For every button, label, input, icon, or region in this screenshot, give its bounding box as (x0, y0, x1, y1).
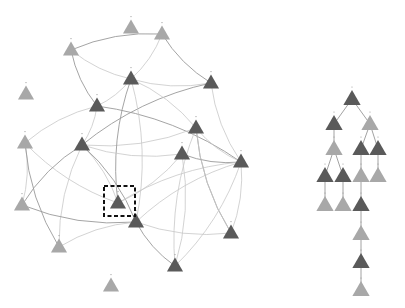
triangle-node[interactable] (316, 163, 333, 182)
triangle-node[interactable] (352, 136, 369, 155)
triangle-node[interactable] (123, 67, 139, 85)
triangle-icon (18, 86, 34, 100)
triangle-icon (352, 253, 369, 268)
graph-edge (136, 162, 241, 222)
graph-edge (211, 83, 241, 162)
node-marker (24, 131, 25, 132)
graph-edge (131, 79, 142, 222)
node-marker (360, 277, 361, 278)
node-marker (117, 191, 118, 192)
node-marker (324, 163, 325, 164)
node-marker (360, 136, 361, 137)
triangle-icon (89, 98, 105, 112)
triangle-icon (316, 167, 333, 182)
triangle-icon (343, 90, 360, 105)
triangle-node[interactable] (325, 111, 342, 130)
graph-edge (196, 128, 231, 233)
node-marker (58, 235, 59, 236)
graph-edge (174, 128, 196, 266)
node-marker (25, 82, 26, 83)
graph-nodes (14, 16, 249, 292)
triangle-icon (103, 278, 119, 292)
triangle-icon (334, 167, 351, 182)
graph-edges (22, 34, 242, 266)
triangle-icon (361, 115, 378, 130)
node-marker (240, 150, 241, 151)
triangle-icon (325, 140, 342, 155)
triangle-node[interactable] (369, 136, 386, 155)
triangle-icon (123, 20, 139, 34)
triangle-icon (369, 140, 386, 155)
node-marker (342, 163, 343, 164)
triangle-node[interactable] (167, 254, 183, 272)
graph-edge (118, 154, 182, 203)
node-marker (342, 192, 343, 193)
graph-edge (82, 145, 136, 222)
triangle-node[interactable] (361, 111, 378, 130)
triangle-icon (154, 26, 170, 40)
graph-edge (82, 145, 118, 203)
triangle-node[interactable] (103, 274, 119, 292)
node-marker (174, 254, 175, 255)
triangle-icon (174, 146, 190, 160)
node-marker (324, 192, 325, 193)
triangle-node[interactable] (123, 16, 139, 34)
node-marker (360, 192, 361, 193)
triangle-node[interactable] (334, 163, 351, 182)
node-marker (130, 67, 131, 68)
node-marker (81, 133, 82, 134)
node-marker (360, 221, 361, 222)
triangle-icon (14, 197, 30, 211)
triangle-icon (352, 196, 369, 211)
triangle-node[interactable] (343, 86, 360, 105)
triangle-icon (74, 137, 90, 151)
node-marker (195, 116, 196, 117)
diagram-canvas (0, 0, 405, 308)
triangle-icon (203, 75, 219, 89)
triangle-icon (334, 196, 351, 211)
graph-edge (182, 154, 241, 163)
graph-edge (22, 145, 82, 205)
node-marker (130, 16, 131, 17)
triangle-node[interactable] (154, 22, 170, 40)
node-marker (110, 274, 111, 275)
triangle-icon (51, 239, 67, 253)
triangle-node[interactable] (188, 116, 204, 134)
triangle-node[interactable] (17, 131, 33, 149)
node-marker (351, 86, 352, 87)
graph-edge (175, 154, 186, 266)
triangle-icon (316, 196, 333, 211)
graph-edge (71, 50, 131, 79)
node-marker (70, 38, 71, 39)
node-marker (230, 221, 231, 222)
triangle-icon (167, 258, 183, 272)
node-marker (161, 22, 162, 23)
node-marker (181, 142, 182, 143)
node-marker (377, 163, 378, 164)
graph-edge (131, 79, 196, 128)
triangle-icon (352, 167, 369, 182)
graph-edge (116, 79, 131, 203)
graph-edge (162, 34, 211, 83)
graph-edge (22, 143, 27, 205)
graph-edge (71, 34, 162, 50)
node-marker (369, 111, 370, 112)
triangle-node[interactable] (63, 38, 79, 56)
triangle-icon (223, 225, 239, 239)
triangle-node[interactable] (18, 82, 34, 100)
graph-edge (59, 222, 136, 247)
graph-edge (131, 34, 162, 79)
node-marker (333, 136, 334, 137)
tree-nodes (316, 86, 386, 296)
triangle-icon (352, 281, 369, 296)
triangle-icon (63, 42, 79, 56)
node-marker (21, 193, 22, 194)
graph-edge (59, 145, 82, 247)
node-marker (210, 71, 211, 72)
graph-edge (82, 128, 196, 146)
graph-edge (25, 143, 59, 247)
graph-edge (82, 83, 211, 145)
triangle-node[interactable] (128, 210, 144, 228)
triangle-icon (233, 154, 249, 168)
node-marker (377, 136, 378, 137)
